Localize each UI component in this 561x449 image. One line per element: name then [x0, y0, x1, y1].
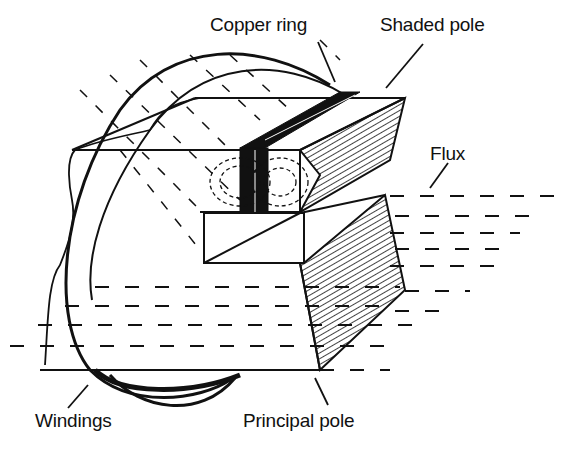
diagram-drawing [0, 0, 561, 449]
principal-pole-block [40, 263, 320, 370]
label-flux: Flux [430, 143, 465, 165]
label-windings: Windings [35, 410, 112, 432]
label-shaded-pole: Shaded pole [380, 14, 485, 36]
label-copper-ring: Copper ring [210, 14, 307, 36]
shaded-pole-diagram: Copper ring Shaded pole Flux Windings Pr… [0, 0, 561, 449]
label-principal-pole: Principal pole [243, 410, 354, 432]
